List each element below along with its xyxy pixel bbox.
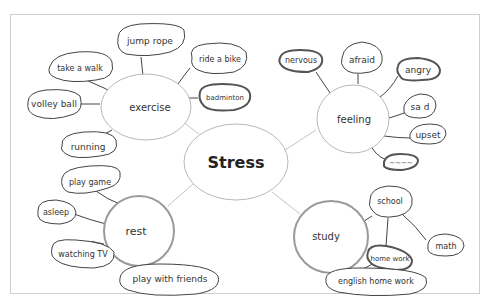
leaf-badminton: badminton xyxy=(206,94,244,102)
leaf-nervous: nervous xyxy=(285,56,317,65)
branch-label-exercise: exercise xyxy=(129,102,170,113)
leaf-sad: sa d xyxy=(411,102,430,112)
leaf-take-a-walk: take a walk xyxy=(57,64,103,73)
leaf-watching-tv: watching TV xyxy=(58,250,108,259)
leaf-ride-a-bike: ride a bike xyxy=(199,55,241,64)
leaf-volley-ball: volley ball xyxy=(31,99,77,109)
leaf-play-game: play game xyxy=(69,178,111,187)
leaf-school: school xyxy=(377,197,403,206)
leaf-afraid: afraid xyxy=(349,55,375,65)
mind-map-canvas: Stress exercise jump rope take a walk ri… xyxy=(0,0,495,306)
branch-label-feeling: feeling xyxy=(337,114,371,125)
leaf-jump-rope: jump rope xyxy=(126,36,173,46)
leaf-math: math xyxy=(436,242,457,251)
leaf-angry: angry xyxy=(405,65,432,75)
branch-label-rest: rest xyxy=(125,225,147,238)
leaf-play-with-friends: play with friends xyxy=(133,274,208,284)
leaf-asleep: asleep xyxy=(43,208,69,217)
center-label: Stress xyxy=(208,153,265,172)
branch-label-study: study xyxy=(312,231,340,242)
leaf-running: running xyxy=(71,142,106,152)
leaf-home-work: home work xyxy=(370,255,410,263)
center-node: Stress xyxy=(184,124,288,200)
leaf-upset: upset xyxy=(415,130,441,140)
leaf-scribbled: ~~~~ xyxy=(389,159,413,167)
leaf-english-home-work: english home work xyxy=(338,277,414,286)
